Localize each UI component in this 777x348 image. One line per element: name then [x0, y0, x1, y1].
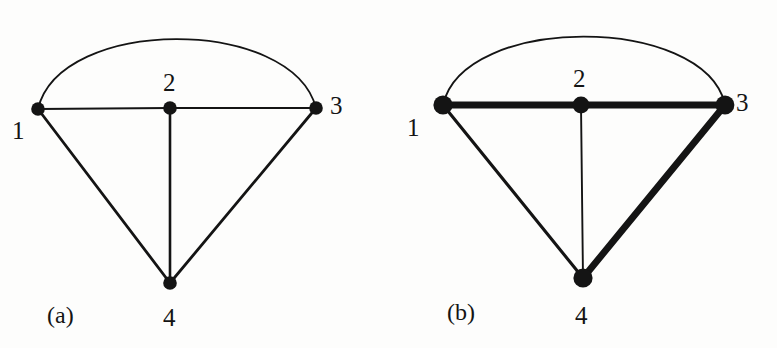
- figure-root: 1 2 3 4 (a) 1 2 3 4 (b): [0, 0, 777, 348]
- node-b-4: [573, 268, 592, 287]
- node-a-2: [163, 101, 177, 115]
- node-label-a-4: 4: [163, 305, 176, 330]
- edge-b-2-4: [581, 105, 583, 278]
- node-b-2: [573, 97, 590, 114]
- edge-a-1-3-arc: [38, 39, 316, 109]
- graph-diagram-a: [0, 0, 389, 348]
- edge-a-1-2: [38, 108, 170, 109]
- graph-panel-b: 1 2 3 4 (b): [389, 0, 777, 348]
- edge-a-3-4: [170, 108, 316, 283]
- node-a-4: [163, 276, 177, 290]
- panel-caption-a: (a): [47, 303, 74, 327]
- graph-panel-a: 1 2 3 4 (a): [0, 0, 389, 348]
- node-label-b-3: 3: [736, 90, 749, 115]
- panel-caption-b: (b): [447, 300, 475, 324]
- node-label-a-2: 2: [163, 70, 176, 95]
- node-label-a-1: 1: [12, 118, 25, 143]
- node-label-a-3: 3: [330, 93, 343, 118]
- edge-b-3-4-highlighted: [583, 105, 725, 278]
- node-b-1: [433, 95, 452, 114]
- node-label-b-1: 1: [407, 115, 420, 140]
- graph-diagram-b: [389, 0, 777, 348]
- node-a-3: [309, 101, 323, 115]
- node-b-3: [716, 96, 735, 115]
- node-a-1: [31, 102, 45, 116]
- edge-a-1-4: [38, 109, 170, 283]
- edge-b-1-4: [443, 105, 583, 278]
- node-label-b-2: 2: [573, 66, 586, 91]
- node-label-b-4: 4: [575, 303, 588, 328]
